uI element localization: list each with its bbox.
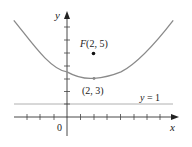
parabola-curve <box>14 20 173 78</box>
y-axis-label: y <box>54 9 60 21</box>
x-axis-label: x <box>169 121 175 133</box>
x-axis-arrow-icon <box>171 114 179 120</box>
parabola-diagram: y x 0 F(2, 5) (2, 3) y = 1 <box>0 0 192 147</box>
origin-label: 0 <box>57 122 62 133</box>
focus-point <box>92 52 96 56</box>
focus-label: F(2, 5) <box>79 38 108 50</box>
y-axis-arrow-icon <box>64 11 70 19</box>
directrix-label: y = 1 <box>139 92 160 103</box>
vertex-label: (2, 3) <box>82 85 104 97</box>
vertex-marker <box>93 77 96 80</box>
